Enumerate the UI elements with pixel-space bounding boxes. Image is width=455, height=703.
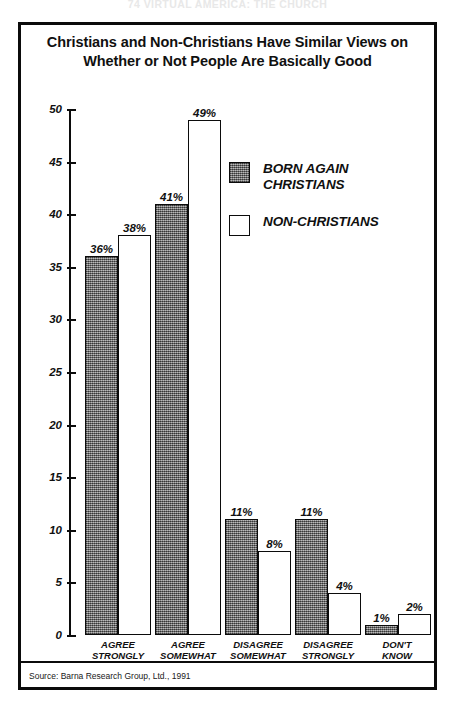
bar-non-christian[interactable]: 2% [398,614,431,635]
y-tick-label: 15 [49,471,62,483]
bar-born-again[interactable]: 36% [85,256,118,635]
bar-value-label: 11% [229,506,253,518]
legend-swatch-icon [229,162,250,183]
legend-swatch-icon [229,215,250,236]
y-tick-label: 35 [49,261,62,273]
y-tick-label: 30 [49,313,62,325]
bar-born-again[interactable]: 1% [365,625,398,636]
bar-value-label: 49% [192,107,217,119]
bar-value-label: 36% [89,243,114,255]
bar-value-label: 11% [299,506,323,518]
bar-born-again[interactable]: 41% [155,204,188,635]
y-tick-label: 10 [49,524,62,536]
legend-item-non-christians[interactable]: NON-CHRISTIANS [229,214,419,236]
legend-label: NON-CHRISTIANS [263,214,379,230]
legend-item-born-again[interactable]: BORN AGAIN CHRISTIANS [229,161,419,192]
bar-group: 41% 49% [155,109,221,635]
bar-value-label: 8% [265,538,284,550]
bar-non-christian[interactable]: 49% [188,120,221,636]
bar-value-label: 38% [122,222,147,234]
bar-value-label: 41% [159,191,184,203]
chart-title: Christians and Non-Christians Have Simil… [29,33,426,71]
y-tick-label: 50 [49,103,62,115]
bar-born-again[interactable]: 11% [225,519,258,635]
bar-group: 36% 38% [85,109,151,635]
bar-non-christian[interactable]: 38% [118,235,151,635]
source-divider [21,661,434,663]
chart-figure-frame: Christians and Non-Christians Have Simil… [18,22,437,690]
bar-value-label: 2% [405,601,424,613]
y-tick-mark [67,635,76,637]
bar-value-label: 1% [372,612,391,624]
y-tick-label: 45 [49,156,62,168]
y-tick-label: 40 [49,208,62,220]
legend-label: BORN AGAIN CHRISTIANS [263,161,349,192]
bar-value-label: 4% [335,580,354,592]
running-page-header: 74 VIRTUAL AMERICA: THE CHURCH [0,0,455,12]
bar-born-again[interactable]: 11% [295,519,328,635]
y-tick-label: 0 [56,629,62,641]
y-tick-label: 25 [49,366,62,378]
y-tick-label: 5 [56,576,62,588]
chart-legend: BORN AGAIN CHRISTIANS NON-CHRISTIANS [229,161,419,258]
bar-non-christian[interactable]: 8% [258,551,291,635]
source-note: Source: Barna Research Group, Ltd., 1991 [29,671,191,681]
y-tick-label: 20 [49,419,62,431]
x-category-label-dont-know: DON'T KNOW [357,639,437,661]
bar-non-christian[interactable]: 4% [328,593,361,635]
